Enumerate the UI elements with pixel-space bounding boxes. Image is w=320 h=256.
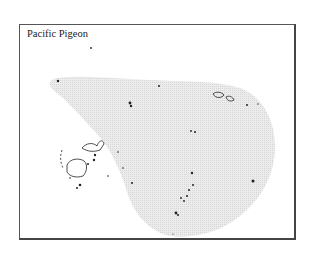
island-viti-levu <box>67 159 87 177</box>
island-vanua-levu <box>82 141 104 152</box>
map-title: Pacific Pigeon <box>27 28 88 39</box>
species-range-area <box>50 77 275 237</box>
fiji-lau-dashes <box>61 150 63 168</box>
